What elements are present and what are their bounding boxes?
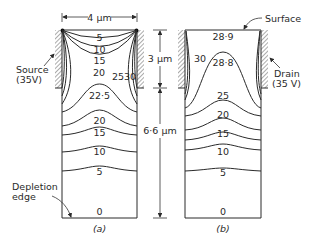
depletion-label-2: edge <box>12 191 36 202</box>
panel-b: 28·9 30 28·8 25 20 15 10 5 0 Surface Dra… <box>178 13 301 234</box>
width-dimension-label: 4 μm <box>87 12 111 23</box>
right-electrode-a <box>137 30 144 88</box>
contour-label: 15 <box>217 128 229 139</box>
source-annotation: Source (35V) <box>16 54 54 85</box>
contour-label: 5 <box>220 167 226 178</box>
contour-label: 30 <box>124 71 136 82</box>
contour-label: 22·5 <box>89 90 110 101</box>
contour-label: 10 <box>217 146 229 157</box>
contour-label: 30 <box>194 53 206 64</box>
panel-a-caption: (a) <box>93 223 106 234</box>
width-dimension: 4 μm <box>62 12 137 23</box>
contour-label: 25 <box>217 90 229 101</box>
panel-b-caption: (b) <box>216 223 229 234</box>
contour-label: 0 <box>220 206 226 217</box>
contour-label: 20 <box>217 109 229 120</box>
drain-electrode <box>261 30 268 88</box>
depletion-potential-diagram: 4 μm <box>0 0 309 240</box>
depth-dimension-upper: 3 μm <box>148 53 172 64</box>
contour-label: 5 <box>96 32 102 43</box>
depth-dimension-lower: 6·6 μm <box>143 125 176 136</box>
depth-dimensions: 3 μm 6·6 μm <box>143 30 176 218</box>
source-electrode <box>55 30 62 88</box>
surface-annotation: Surface <box>244 13 301 29</box>
contour-label: 10 <box>93 44 105 55</box>
contour-label: 28·8 <box>212 57 233 68</box>
drain-voltage: (35 V) <box>272 78 301 89</box>
contour-labels-b: 28·9 30 28·8 25 20 15 10 5 0 <box>194 31 234 217</box>
left-electrode-b <box>178 30 185 88</box>
contour-label: 28·9 <box>212 31 233 42</box>
panel-a: 4 μm <box>12 12 144 235</box>
surface-label: Surface <box>265 13 301 24</box>
contour-label: 0 <box>96 206 102 217</box>
contour-label: 5 <box>96 166 102 177</box>
contour-label: 10 <box>93 146 105 157</box>
contour-label: 25 <box>112 71 124 82</box>
drain-annotation: Drain (35 V) <box>270 58 301 89</box>
contour-label: 15 <box>93 127 105 138</box>
contour-label: 15 <box>93 55 105 66</box>
source-voltage: (35V) <box>16 74 42 85</box>
contour-label: 20 <box>93 67 105 78</box>
contour-label: 20 <box>93 115 105 126</box>
